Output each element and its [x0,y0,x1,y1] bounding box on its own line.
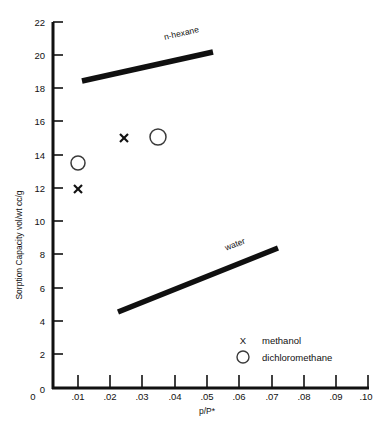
y-tick-label-16: 16 [34,116,45,127]
x-tick-label-07: .07 [265,391,278,402]
y-tick-label-14: 14 [34,150,45,161]
legend-label-dichloromethane: dichloromethane [262,352,332,363]
x-tick-label-09: .09 [329,391,342,402]
x-tick-label-0: 0 [30,391,35,402]
legend-label-methanol: methanol [262,335,301,346]
x-tick-label-06: .06 [232,391,245,402]
y-tick-label-6: 6 [40,283,45,294]
y-tick-label-0: 0 [40,384,45,395]
x-axis-title: p/P* [199,406,216,416]
y-axis-title: Sorption Capacity vol/wt cc/g [14,190,24,299]
y-tick-label-18: 18 [34,83,45,94]
sorption-capacity-chart: 22 20 18 16 14 12 10 8 6 4 2 0 [0,0,381,425]
x-tick-label-05: .05 [200,391,213,402]
y-tick-label-2: 2 [40,349,45,360]
x-tick-label-02: .02 [103,391,116,402]
chart-canvas: 22 20 18 16 14 12 10 8 6 4 2 0 [0,0,381,425]
y-tick-label-4: 4 [40,316,45,327]
x-tick-label-04: .04 [168,391,181,402]
y-tick-label-20: 20 [34,50,45,61]
x-tick-label-08: .08 [297,391,310,402]
x-tick-label-01: .01 [71,391,84,402]
y-tick-label-10: 10 [34,216,45,227]
y-tick-label-22: 22 [34,17,45,28]
x-tick-label-10: .10 [359,391,372,402]
y-tick-label-12: 12 [34,183,45,194]
legend-x-icon: X [240,335,247,346]
y-tick-label-8: 8 [40,249,45,260]
x-tick-label-03: .03 [135,391,148,402]
